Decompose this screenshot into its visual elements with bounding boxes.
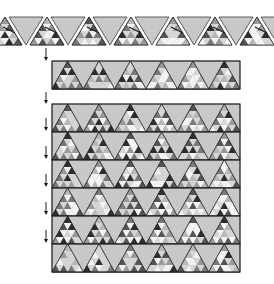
sub-triangle: [43, 17, 52, 24]
down-arrows: [44, 48, 48, 243]
sub-triangle: [85, 17, 94, 24]
arrowhead-icon: [44, 239, 48, 243]
arrowhead-icon: [44, 100, 48, 104]
arrowhead-icon: [44, 211, 48, 215]
sub-triangle: [211, 17, 220, 24]
arrowhead-icon: [44, 183, 48, 187]
single-strip: [52, 61, 240, 89]
sub-triangle: [1, 17, 10, 24]
tile-assembly-diagram: [0, 0, 274, 284]
arrowhead-icon: [44, 155, 48, 159]
sub-triangle: [169, 17, 178, 24]
arrowhead-icon: [44, 57, 48, 61]
sub-triangle: [127, 17, 136, 24]
arrowhead-icon: [44, 127, 48, 131]
sub-triangle: [253, 17, 262, 24]
stacked-block: [52, 104, 240, 272]
top-band-tiles: [0, 17, 274, 45]
